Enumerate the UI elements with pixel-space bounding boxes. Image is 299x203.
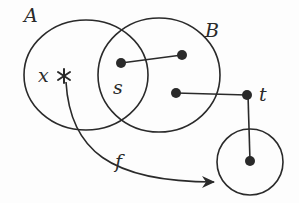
point-t-label: t: [259, 83, 267, 105]
segment-t-fx: [248, 95, 250, 161]
segment-p2-t: [176, 93, 247, 95]
set-a-label: A: [22, 4, 38, 26]
set-b-label: B: [204, 19, 219, 41]
point-x-asterisk-icon: [58, 69, 70, 83]
point-p2-dot: [171, 88, 181, 98]
set-mapping-diagram: A B x s t f: [0, 0, 299, 203]
point-x-label: x: [38, 64, 49, 86]
set-b-circle: [98, 18, 220, 132]
point-t-dot: [242, 90, 252, 100]
point-p1-dot: [177, 50, 187, 60]
point-s-dot: [116, 58, 126, 68]
mapping-arrow-f: [66, 82, 214, 182]
segment-s-p1: [121, 55, 182, 63]
point-s-label: s: [113, 76, 123, 98]
diagram-canvas: A B x s t f: [0, 0, 299, 203]
point-fx-dot: [245, 156, 255, 166]
